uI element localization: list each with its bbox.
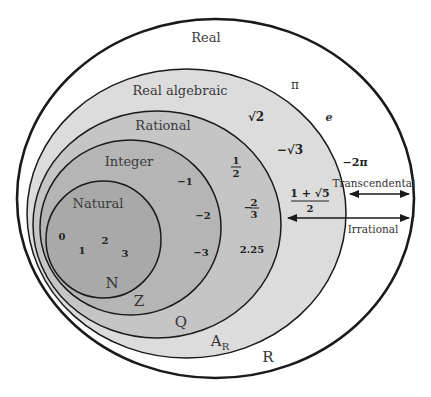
- label-integer: Integer: [105, 154, 154, 169]
- svg-text:3: 3: [251, 209, 258, 220]
- label-natural: Natural: [73, 196, 124, 211]
- symbol-real: R: [262, 348, 274, 366]
- symbol-natural: N: [105, 274, 118, 292]
- member-neg-sqrt3: −√3: [277, 143, 303, 157]
- svg-text:1: 1: [233, 155, 240, 166]
- member-e: e: [326, 111, 333, 124]
- annotation-irrational: Irrational: [348, 223, 399, 235]
- label-real: Real: [191, 30, 220, 45]
- label-rational: Rational: [135, 118, 190, 133]
- member-pi: π: [291, 78, 299, 92]
- annotation-transcendental: Transcendental: [333, 177, 416, 189]
- svg-text:2: 2: [251, 197, 258, 208]
- svg-text:2: 2: [307, 203, 314, 214]
- symbol-rational: Q: [175, 313, 187, 331]
- member-0: 0: [59, 231, 66, 242]
- member-neg2: −2: [195, 210, 210, 221]
- svg-text:1 + √5: 1 + √5: [290, 187, 329, 200]
- svg-text:2: 2: [233, 168, 240, 179]
- member-3: 3: [122, 248, 129, 259]
- member-2-25: 2.25: [240, 244, 264, 255]
- number-sets-venn-diagram: Real Real algebraic Rational Integer Nat…: [0, 0, 431, 397]
- member-neg3: −3: [193, 247, 208, 258]
- member-2: 2: [102, 235, 109, 246]
- member-1: 1: [79, 245, 86, 256]
- member-neg1: −1: [177, 176, 192, 187]
- symbol-integer: Z: [134, 292, 144, 310]
- member-sqrt2: √2: [248, 110, 264, 124]
- member-neg-2pi: −2π: [343, 156, 368, 169]
- label-real-algebraic: Real algebraic: [132, 83, 227, 98]
